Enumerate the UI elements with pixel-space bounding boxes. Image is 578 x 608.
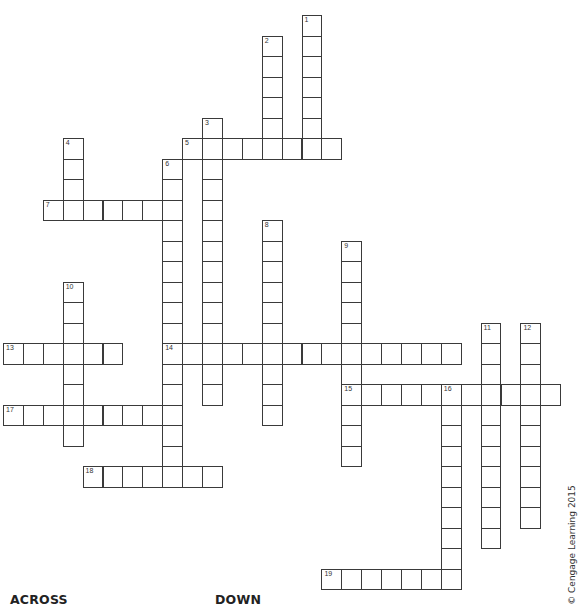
crossword-cell[interactable]: [441, 487, 462, 509]
crossword-cell[interactable]: [441, 569, 462, 591]
crossword-cell[interactable]: [501, 384, 522, 406]
crossword-cell[interactable]: [262, 405, 283, 427]
crossword-cell[interactable]: [162, 425, 183, 447]
crossword-cell[interactable]: [122, 200, 143, 222]
crossword-cell[interactable]: [302, 118, 323, 140]
crossword-cell[interactable]: [481, 343, 502, 365]
crossword-cell[interactable]: [461, 384, 482, 406]
crossword-cell[interactable]: [302, 77, 323, 99]
crossword-cell[interactable]: [282, 138, 303, 160]
crossword-cell[interactable]: [441, 446, 462, 468]
crossword-cell[interactable]: [520, 446, 541, 468]
crossword-cell[interactable]: [302, 56, 323, 78]
crossword-cell[interactable]: 3: [202, 118, 223, 140]
crossword-cell[interactable]: 8: [262, 220, 283, 242]
crossword-cell[interactable]: [182, 343, 203, 365]
crossword-cell[interactable]: [481, 384, 502, 406]
crossword-cell[interactable]: [162, 364, 183, 386]
crossword-cell[interactable]: 18: [83, 466, 104, 488]
crossword-cell[interactable]: [63, 384, 84, 406]
crossword-cell[interactable]: 4: [63, 138, 84, 160]
crossword-cell[interactable]: [162, 384, 183, 406]
crossword-cell[interactable]: [401, 384, 422, 406]
crossword-cell[interactable]: [341, 364, 362, 386]
crossword-cell[interactable]: [202, 261, 223, 283]
crossword-cell[interactable]: [302, 138, 323, 160]
crossword-cell[interactable]: [63, 159, 84, 181]
crossword-cell[interactable]: [341, 282, 362, 304]
crossword-cell[interactable]: [262, 384, 283, 406]
crossword-cell[interactable]: 1: [302, 15, 323, 37]
crossword-cell[interactable]: [83, 343, 104, 365]
crossword-cell[interactable]: [341, 569, 362, 591]
crossword-cell[interactable]: [302, 97, 323, 119]
crossword-cell[interactable]: [202, 364, 223, 386]
crossword-cell[interactable]: [142, 405, 163, 427]
crossword-cell[interactable]: [202, 220, 223, 242]
crossword-cell[interactable]: [43, 405, 64, 427]
crossword-cell[interactable]: [63, 179, 84, 201]
crossword-cell[interactable]: [122, 405, 143, 427]
crossword-cell[interactable]: 7: [43, 200, 64, 222]
crossword-cell[interactable]: [142, 466, 163, 488]
crossword-cell[interactable]: 14: [162, 343, 183, 365]
crossword-cell[interactable]: [202, 159, 223, 181]
crossword-cell[interactable]: [441, 466, 462, 488]
crossword-cell[interactable]: [162, 405, 183, 427]
crossword-cell[interactable]: [341, 446, 362, 468]
crossword-cell[interactable]: [63, 405, 84, 427]
crossword-cell[interactable]: [202, 179, 223, 201]
crossword-cell[interactable]: [202, 241, 223, 263]
crossword-cell[interactable]: [202, 138, 223, 160]
crossword-cell[interactable]: [302, 343, 323, 365]
crossword-cell[interactable]: [103, 405, 124, 427]
crossword-cell[interactable]: [441, 405, 462, 427]
crossword-cell[interactable]: [23, 405, 44, 427]
crossword-cell[interactable]: [262, 343, 283, 365]
crossword-cell[interactable]: 5: [182, 138, 203, 160]
crossword-cell[interactable]: 2: [262, 36, 283, 58]
crossword-cell[interactable]: [282, 343, 303, 365]
crossword-cell[interactable]: [103, 200, 124, 222]
crossword-cell[interactable]: [262, 323, 283, 345]
crossword-cell[interactable]: [162, 323, 183, 345]
crossword-cell[interactable]: [441, 528, 462, 550]
crossword-cell[interactable]: [262, 282, 283, 304]
crossword-cell[interactable]: [441, 343, 462, 365]
crossword-cell[interactable]: [262, 241, 283, 263]
crossword-cell[interactable]: [23, 343, 44, 365]
crossword-cell[interactable]: [122, 466, 143, 488]
crossword-cell[interactable]: [63, 343, 84, 365]
crossword-cell[interactable]: 9: [341, 241, 362, 263]
crossword-cell[interactable]: [481, 364, 502, 386]
crossword-cell[interactable]: [182, 466, 203, 488]
crossword-cell[interactable]: [421, 343, 442, 365]
crossword-cell[interactable]: 12: [520, 323, 541, 345]
crossword-cell[interactable]: [222, 138, 243, 160]
crossword-cell[interactable]: [162, 446, 183, 468]
crossword-cell[interactable]: [481, 466, 502, 488]
crossword-cell[interactable]: [262, 302, 283, 324]
crossword-cell[interactable]: [262, 77, 283, 99]
crossword-cell[interactable]: 11: [481, 323, 502, 345]
crossword-cell[interactable]: [361, 384, 382, 406]
crossword-cell[interactable]: [520, 384, 541, 406]
crossword-cell[interactable]: [421, 569, 442, 591]
crossword-cell[interactable]: [401, 569, 422, 591]
crossword-cell[interactable]: [202, 302, 223, 324]
crossword-cell[interactable]: [481, 487, 502, 509]
crossword-cell[interactable]: [162, 282, 183, 304]
crossword-cell[interactable]: [341, 323, 362, 345]
crossword-cell[interactable]: [321, 138, 342, 160]
crossword-cell[interactable]: [83, 200, 104, 222]
crossword-cell[interactable]: [162, 220, 183, 242]
crossword-cell[interactable]: [162, 466, 183, 488]
crossword-cell[interactable]: [520, 364, 541, 386]
crossword-cell[interactable]: [441, 507, 462, 529]
crossword-cell[interactable]: [481, 405, 502, 427]
crossword-cell[interactable]: [321, 343, 342, 365]
crossword-cell[interactable]: [202, 466, 223, 488]
crossword-cell[interactable]: [162, 241, 183, 263]
crossword-cell[interactable]: [202, 282, 223, 304]
crossword-cell[interactable]: [441, 425, 462, 447]
